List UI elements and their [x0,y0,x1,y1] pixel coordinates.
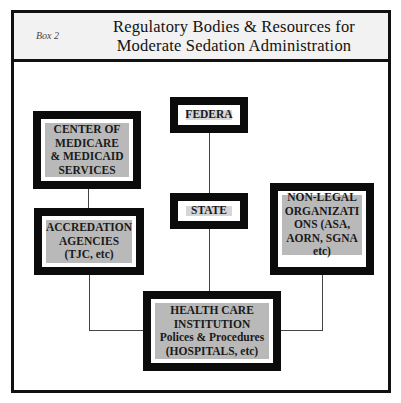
node-state: STATE [170,193,248,229]
node-hospital-label: HEALTH CARE INSTITUTION Polices & Proced… [155,303,269,359]
node-accreditation: ACCREDATION AGENCIES (TJC, etc) [34,208,144,275]
title-line-1: Regulatory Bodies & Resources for [94,17,374,36]
box-label: Box 2 [36,30,59,41]
node-state-label: STATE [186,206,232,216]
node-hospital: HEALTH CARE INSTITUTION Polices & Proced… [143,291,281,371]
connector-nonlegal-down [322,275,323,331]
node-cms: CENTER OF MEDICARE & MEDICAID SERVICES [33,111,141,189]
connector-nonlegal-hospital [281,330,323,331]
hospital-line-2: Polices & Procedures [160,331,264,345]
connector-accreditation-down [89,275,90,331]
hospital-line-1: HEALTH CARE INSTITUTION [155,304,269,331]
node-non-legal: NON-LEGAL ORGANIZATI ONS (ASA, AORN, SGN… [270,183,374,275]
connector-cms-accreditation [88,189,89,208]
node-cms-label: CENTER OF MEDICARE & MEDICAID SERVICES [45,123,129,177]
title-line-2: Moderate Sedation Administration [94,36,374,55]
node-federal-label: FEDERA [186,110,232,120]
connector-state-hospital [209,229,210,291]
connector-federal-state [209,133,210,193]
node-non-legal-label: NON-LEGAL ORGANIZATI ONS (ASA, AORN, SGN… [282,195,362,255]
node-accreditation-label: ACCREDATION AGENCIES (TJC, etc) [46,220,132,263]
connector-accreditation-hospital [89,330,143,331]
node-federal: FEDERA [170,97,248,133]
hospital-line-3: (HOSPITALS, etc) [166,345,258,359]
header-band: Box 2 Regulatory Bodies & Resources for … [14,13,388,62]
diagram-title: Regulatory Bodies & Resources for Modera… [94,17,374,55]
